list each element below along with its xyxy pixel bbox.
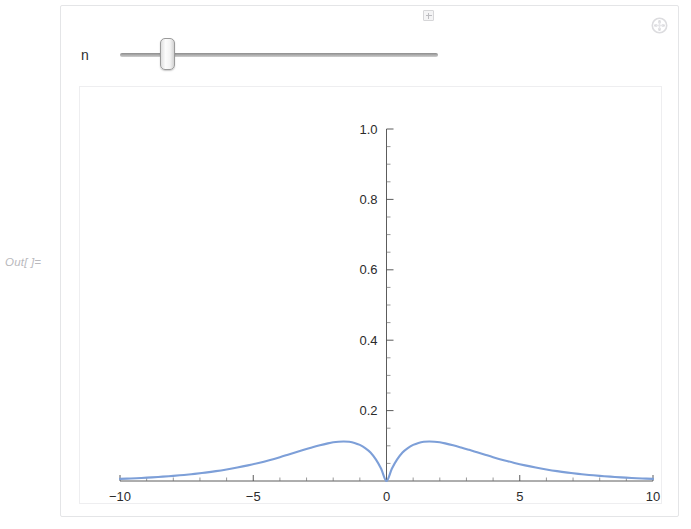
y-axis-tick-label: 0.2 xyxy=(359,403,377,418)
y-axis-tick-label: 0.8 xyxy=(359,192,377,207)
x-axis-tick-label: −5 xyxy=(246,489,261,503)
y-axis-tick-label: 0.4 xyxy=(359,333,377,348)
x-axis-tick-label: 5 xyxy=(516,489,523,503)
slider-control-n[interactable]: n xyxy=(81,42,438,68)
slider-label-n: n xyxy=(81,48,103,62)
y-axis-tick-label: 0.6 xyxy=(359,262,377,277)
slider-thumb[interactable] xyxy=(160,38,175,70)
plot-graphics-frame[interactable]: −10−505100.20.40.60.81.0 xyxy=(79,86,662,504)
y-axis-tick-label: 1.0 xyxy=(359,122,377,137)
notebook-output-cell: Out[ ]= n −10−5 xyxy=(0,0,691,529)
x-axis-tick-label: 10 xyxy=(646,489,660,503)
plus-circle-icon[interactable] xyxy=(651,17,668,34)
manipulate-controls-area: n xyxy=(61,6,678,82)
manipulate-panel: n −10−505100.20.40.60.81.0 xyxy=(60,5,679,517)
x-axis-tick-label: −10 xyxy=(109,489,131,503)
output-cell-label: Out[ ]= xyxy=(5,256,41,268)
plus-square-icon[interactable] xyxy=(423,10,434,21)
function-plot: −10−505100.20.40.60.81.0 xyxy=(80,87,661,503)
x-axis-tick-label: 0 xyxy=(383,489,390,503)
slider-n[interactable] xyxy=(120,42,438,68)
